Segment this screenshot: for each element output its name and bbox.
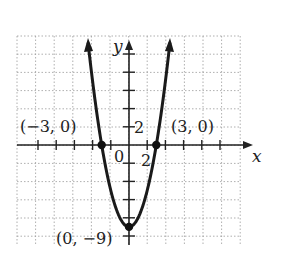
origin-label: 0 (114, 147, 124, 166)
y-axis (125, 40, 133, 245)
x-axis-label: x (252, 146, 262, 166)
parabola-graph: y x 0 2 2 (−3, 0) (3, 0) (0, −9) (0, 0, 281, 254)
point-marker (98, 141, 106, 149)
point-marker (152, 141, 160, 149)
curve-arrow-right-icon (165, 38, 174, 52)
y-tick-label-2: 2 (134, 118, 144, 137)
point-label-3-0: (3, 0) (171, 117, 214, 136)
y-axis-arrow-icon (125, 40, 133, 50)
point-label-neg3-0: (−3, 0) (20, 117, 76, 136)
point-label-0-neg9: (0, −9) (56, 229, 112, 248)
point-marker (125, 223, 133, 231)
x-tick-label-2: 2 (141, 151, 151, 170)
y-axis-label: y (112, 36, 123, 56)
x-axis (17, 141, 253, 149)
